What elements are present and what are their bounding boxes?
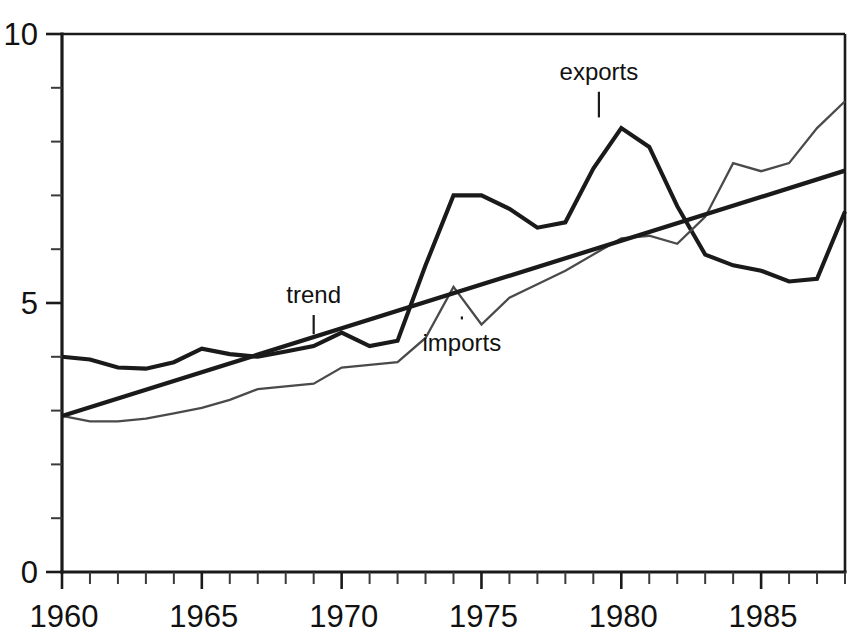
series-annotations: trendimportsexports xyxy=(286,58,638,357)
series-line-trend xyxy=(62,171,845,416)
chart-axes xyxy=(62,34,845,572)
x-tick-label-1980: 1980 xyxy=(589,599,658,634)
x-tick-label-1975: 1975 xyxy=(449,599,518,634)
x-tick-label-1985: 1985 xyxy=(729,599,798,634)
x-tick-label-1970: 1970 xyxy=(309,599,378,634)
line-chart: trendimportsexports 05101960196519701975… xyxy=(0,0,862,644)
x-tick-label-1965: 1965 xyxy=(169,599,238,634)
y-tick-label-5: 5 xyxy=(21,286,38,321)
x-tick-label-1960: 1960 xyxy=(30,599,99,634)
y-tick-label-10: 10 xyxy=(4,17,38,52)
annotation-label-imports: imports xyxy=(423,329,502,356)
y-tick-label-0: 0 xyxy=(21,555,38,590)
annotation-label-trend: trend xyxy=(286,281,341,308)
annotation-label-exports: exports xyxy=(560,58,639,85)
axis-ticks xyxy=(46,34,845,589)
axis-tick-labels: 0510196019651970197519801985 xyxy=(4,17,798,634)
chart-container: trendimportsexports 05101960196519701975… xyxy=(0,0,862,644)
data-series-group xyxy=(62,101,845,421)
